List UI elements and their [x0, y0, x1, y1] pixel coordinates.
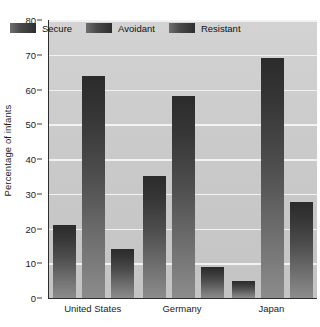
legend-swatch-resistant-icon	[169, 23, 195, 33]
legend-label: Avoidant	[118, 23, 155, 34]
plot-area	[48, 20, 317, 299]
y-tick-label: 50	[25, 119, 36, 130]
bar-germany-secure	[143, 176, 166, 298]
y-tick-mark	[37, 124, 42, 125]
y-tick-mark	[37, 159, 42, 160]
y-axis-title: Percentage of infants	[0, 0, 16, 300]
y-tick-label: 40	[25, 154, 36, 165]
bar-japan-avoidant	[261, 58, 284, 298]
bar-chart: Percentage of infants 01020304050607080 …	[0, 0, 320, 327]
y-axis-title-label: Percentage of infants	[3, 104, 14, 196]
y-tick-label: 30	[25, 188, 36, 199]
y-axis-tick-labels: 01020304050607080	[16, 20, 42, 298]
x-tick-label: Germany	[162, 303, 201, 314]
bar-germany-resistant	[201, 267, 224, 298]
y-tick-label: 60	[25, 84, 36, 95]
legend-item-secure: Secure	[10, 23, 72, 34]
x-tick-label: United States	[64, 303, 121, 314]
y-tick-mark	[37, 298, 42, 299]
y-tick-label: 10	[25, 258, 36, 269]
y-tick-mark	[37, 228, 42, 229]
y-tick-mark	[37, 54, 42, 55]
y-tick-label: 20	[25, 223, 36, 234]
chart-legend: SecureAvoidantResistant	[10, 20, 260, 36]
legend-swatch-secure-icon	[10, 23, 36, 33]
legend-swatch-avoidant-icon	[86, 23, 112, 33]
bars-layer	[49, 20, 317, 298]
bar-japan-resistant	[290, 202, 313, 298]
bar-united-states-resistant	[111, 249, 134, 298]
y-tick-label: 70	[25, 49, 36, 60]
y-tick-mark	[37, 263, 42, 264]
legend-item-resistant: Resistant	[169, 23, 241, 34]
x-tick-label: Japan	[258, 303, 284, 314]
bar-united-states-secure	[53, 225, 76, 298]
bar-germany-avoidant	[172, 96, 195, 298]
y-tick-label: 0	[31, 293, 36, 304]
bar-united-states-avoidant	[82, 76, 105, 298]
x-axis-tick-labels: United StatesGermanyJapan	[48, 303, 316, 323]
legend-item-avoidant: Avoidant	[86, 23, 155, 34]
legend-label: Resistant	[201, 23, 241, 34]
y-tick-mark	[37, 193, 42, 194]
legend-label: Secure	[42, 23, 72, 34]
bar-japan-secure	[232, 281, 255, 298]
y-tick-mark	[37, 89, 42, 90]
